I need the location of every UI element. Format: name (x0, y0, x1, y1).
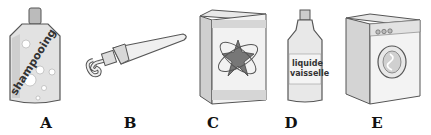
item-d-dishsoap: liquide vaisselle D (270, 0, 345, 135)
label-a: A (31, 114, 61, 132)
shampoo-bottle-icon: shampooing (0, 0, 90, 110)
item-c-detergent: C (190, 0, 280, 135)
detergent-box-icon (190, 0, 280, 110)
toothpaste-tube-icon (85, 0, 195, 110)
label-c: C (198, 114, 228, 132)
dish-soap-bottle-icon: liquide vaisselle (270, 0, 345, 110)
item-a-shampoo: shampooing A (0, 0, 90, 135)
label-b: B (115, 114, 145, 132)
dishsoap-text-line2: vaisselle (290, 69, 330, 78)
label-d: D (276, 114, 306, 132)
washing-machine-icon (340, 0, 431, 110)
item-b-toothpaste: B (85, 0, 195, 135)
label-e: E (362, 114, 392, 132)
item-e-washing-machine: E (340, 0, 431, 135)
dishsoap-text-line1: liquide (292, 59, 323, 68)
